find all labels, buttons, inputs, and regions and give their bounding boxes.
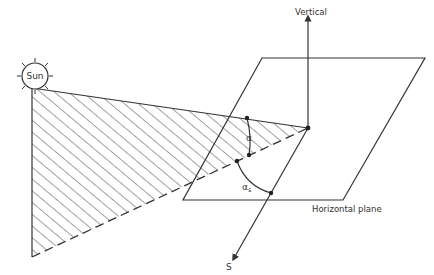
altitude-arc-start-dot bbox=[245, 116, 249, 120]
origin-dot bbox=[306, 126, 311, 131]
horizontal-plane-label: Horizontal plane bbox=[312, 204, 382, 214]
azimuth-arc-end-dot bbox=[269, 191, 273, 195]
south-label: S bbox=[226, 262, 232, 272]
altitude-angle-label: α bbox=[246, 133, 252, 143]
sun-label: Sun bbox=[26, 71, 43, 81]
azimuth-subscript: s bbox=[248, 186, 252, 194]
shaded-ray-triangle bbox=[32, 88, 308, 257]
vertical-label: Vertical bbox=[295, 7, 327, 17]
azimuth-angle-label: αs bbox=[242, 182, 252, 194]
altitude-arc-end-dot bbox=[247, 153, 251, 157]
solar-angle-diagram: Sun Vertical Horizontal plane S α αs bbox=[0, 0, 434, 275]
azimuth-arc-start-dot bbox=[235, 159, 239, 163]
